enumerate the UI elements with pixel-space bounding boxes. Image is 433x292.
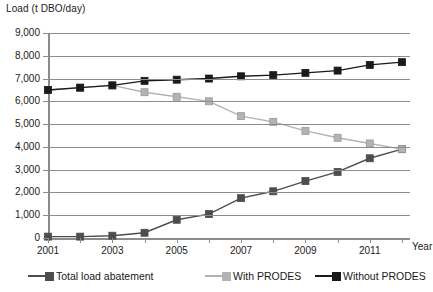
x-axis-tick bbox=[145, 238, 146, 243]
y-axis-tick bbox=[43, 56, 48, 57]
data-point-marker bbox=[238, 195, 245, 202]
data-point-marker bbox=[334, 134, 341, 141]
y-axis-tick-label: 8,000 bbox=[0, 50, 40, 61]
y-axis-tick bbox=[43, 170, 48, 171]
gridline bbox=[48, 170, 410, 171]
data-point-marker bbox=[173, 76, 180, 83]
legend-item: Total load abatement bbox=[28, 270, 153, 282]
gridline bbox=[48, 33, 410, 34]
x-axis-tick bbox=[80, 238, 81, 243]
data-point-marker bbox=[109, 82, 116, 89]
gridline bbox=[48, 192, 410, 193]
legend-marker-icon bbox=[222, 272, 231, 281]
data-point-marker bbox=[141, 89, 148, 96]
data-point-marker bbox=[334, 67, 341, 74]
x-axis-tick-label: 2009 bbox=[283, 245, 327, 256]
data-point-marker bbox=[366, 155, 373, 162]
legend-item: Without PRODES bbox=[315, 270, 426, 282]
y-axis-tick bbox=[43, 215, 48, 216]
x-axis-tick-label: 2007 bbox=[219, 245, 263, 256]
data-point-marker bbox=[205, 211, 212, 218]
gridline bbox=[48, 56, 410, 57]
gridline bbox=[48, 215, 410, 216]
x-axis-tick bbox=[402, 238, 403, 243]
data-point-marker bbox=[77, 84, 84, 91]
x-axis-tick-label: 2005 bbox=[155, 245, 199, 256]
x-axis-tick bbox=[209, 238, 210, 243]
x-axis-tick-label: 2001 bbox=[26, 245, 70, 256]
data-point-marker bbox=[45, 86, 52, 93]
gridline bbox=[48, 124, 410, 125]
y-axis-tick-label: 7,000 bbox=[0, 73, 40, 84]
chart-container: Load (t DBO/day) Year Total load abateme… bbox=[0, 0, 433, 292]
gridline bbox=[48, 101, 410, 102]
x-axis-line bbox=[48, 238, 410, 240]
data-point-marker bbox=[173, 93, 180, 100]
y-axis-tick-label: 5,000 bbox=[0, 118, 40, 129]
y-axis-tick bbox=[43, 192, 48, 193]
plot-area bbox=[48, 33, 410, 238]
y-axis-tick-label: 6,000 bbox=[0, 95, 40, 106]
data-point-marker bbox=[270, 188, 277, 195]
y-axis-tick-label: 9,000 bbox=[0, 27, 40, 38]
data-point-marker bbox=[302, 127, 309, 134]
y-axis-tick bbox=[43, 33, 48, 34]
data-point-marker bbox=[173, 216, 180, 223]
series-line bbox=[48, 62, 402, 90]
y-axis-tick-label: 0 bbox=[0, 232, 40, 243]
legend-label: Total load abatement bbox=[56, 270, 153, 282]
series-layer bbox=[48, 33, 410, 238]
data-point-marker bbox=[141, 229, 148, 236]
data-point-marker bbox=[366, 61, 373, 68]
y-axis-tick bbox=[43, 101, 48, 102]
series-line bbox=[48, 85, 402, 149]
gridline bbox=[48, 79, 410, 80]
x-axis-tick bbox=[305, 238, 306, 243]
chart-legend: Total load abatementWith PRODESWithout P… bbox=[0, 262, 433, 290]
y-axis-tick bbox=[43, 147, 48, 148]
data-point-marker bbox=[398, 59, 405, 66]
y-axis-title: Load (t DBO/day) bbox=[6, 3, 85, 14]
y-axis-tick-label: 2,000 bbox=[0, 186, 40, 197]
data-point-marker bbox=[302, 178, 309, 185]
x-axis-tick-label: 2003 bbox=[90, 245, 134, 256]
x-axis-tick bbox=[112, 238, 113, 243]
x-axis-tick bbox=[338, 238, 339, 243]
data-point-marker bbox=[302, 69, 309, 76]
x-axis-tick bbox=[48, 238, 49, 243]
x-axis-title: Year bbox=[412, 241, 432, 252]
data-point-marker bbox=[238, 113, 245, 120]
x-axis-tick bbox=[273, 238, 274, 243]
legend-marker-icon bbox=[332, 272, 341, 281]
legend-marker-icon bbox=[45, 272, 54, 281]
legend-item: With PRODES bbox=[205, 270, 301, 282]
x-axis-tick bbox=[370, 238, 371, 243]
legend-label: Without PRODES bbox=[343, 270, 426, 282]
x-axis-tick bbox=[241, 238, 242, 243]
y-axis-tick-label: 1,000 bbox=[0, 209, 40, 220]
y-axis-tick bbox=[43, 124, 48, 125]
gridline bbox=[48, 147, 410, 148]
x-axis-tick-label: 2011 bbox=[348, 245, 392, 256]
y-axis-tick-label: 4,000 bbox=[0, 141, 40, 152]
x-axis-tick bbox=[177, 238, 178, 243]
y-axis-tick bbox=[43, 79, 48, 80]
legend-label: With PRODES bbox=[233, 270, 301, 282]
y-axis-tick-label: 3,000 bbox=[0, 164, 40, 175]
